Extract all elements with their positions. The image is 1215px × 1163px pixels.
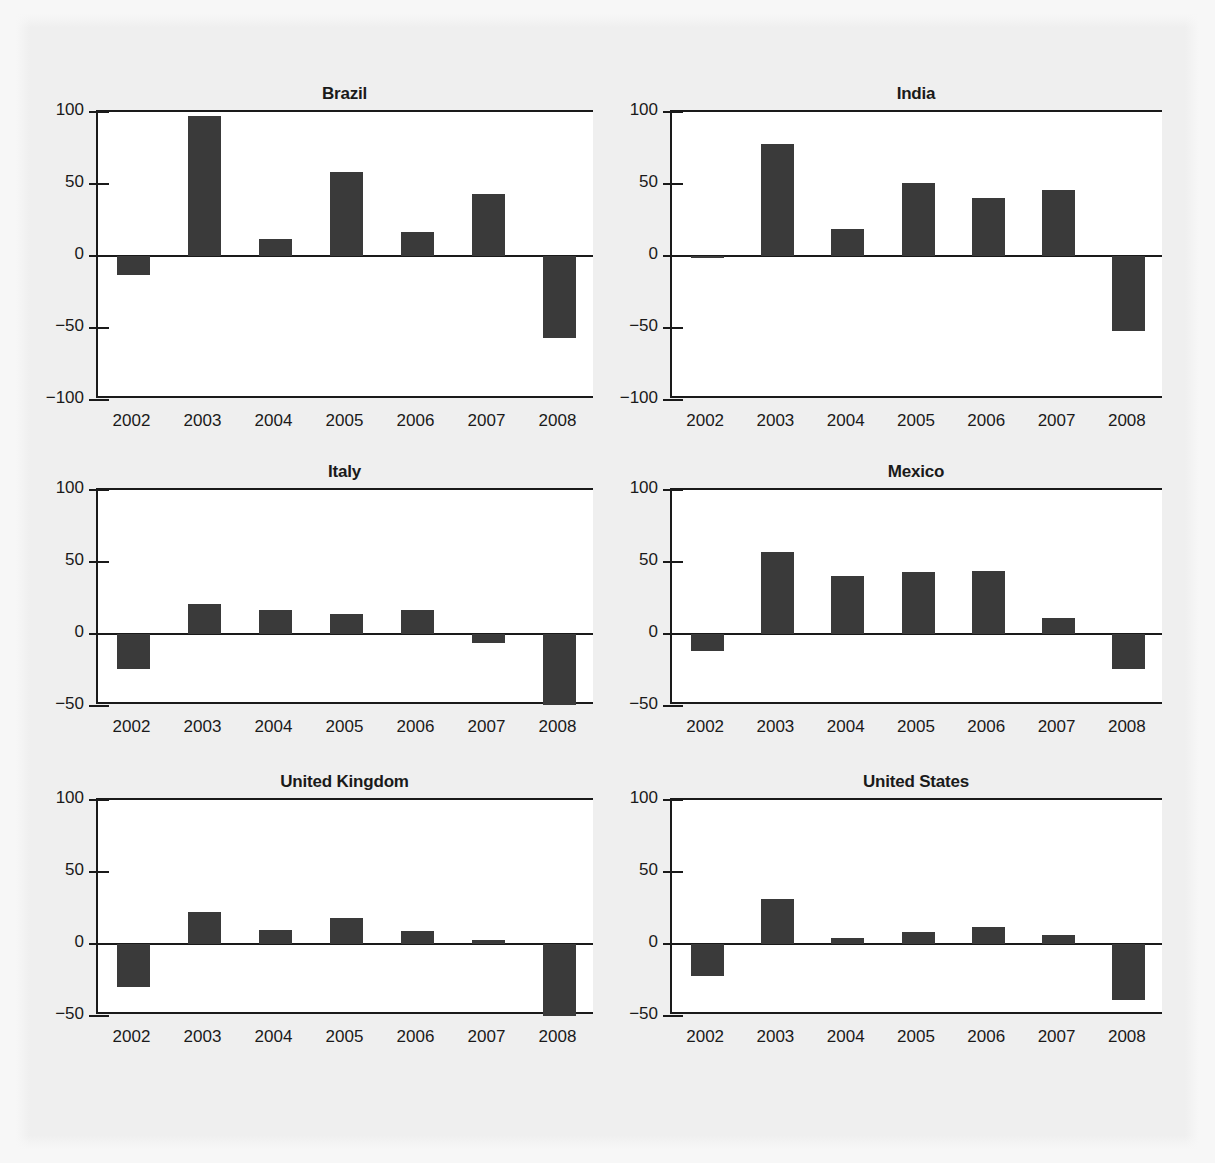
y-axis-tick-label: 0: [36, 623, 84, 640]
y-axis-tick-label: 50: [36, 551, 84, 568]
y-axis-tick-label: 100: [36, 789, 84, 806]
bar: [117, 256, 150, 275]
bar: [972, 198, 1005, 256]
x-axis-tick-label: 2006: [386, 412, 446, 429]
x-axis-tick-label: 2002: [102, 1028, 162, 1045]
plot-area: [670, 798, 1162, 1014]
x-axis-tick-label: 2006: [386, 1028, 446, 1045]
y-axis-tick-label: 100: [36, 479, 84, 496]
bar: [188, 116, 221, 256]
y-axis-tick: [89, 633, 109, 635]
bar: [831, 229, 864, 256]
x-axis-tick-label: 2007: [1027, 718, 1087, 735]
chart-title: United Kingdom: [96, 772, 593, 792]
x-axis-tick-label: 2007: [1027, 1028, 1087, 1045]
bar: [1042, 618, 1075, 634]
bar: [117, 634, 150, 669]
y-axis-tick: [89, 943, 109, 945]
bar: [1042, 935, 1075, 944]
bar: [472, 634, 505, 643]
x-axis-tick-label: 2003: [745, 1028, 805, 1045]
y-axis-tick: [663, 943, 683, 945]
y-axis-tick-label: 100: [610, 479, 658, 496]
y-axis-tick: [663, 255, 683, 257]
x-axis-tick-label: 2005: [886, 718, 946, 735]
x-axis-tick-label: 2007: [1027, 412, 1087, 429]
plot-area: [670, 488, 1162, 704]
y-axis-tick-label: 0: [610, 933, 658, 950]
bar: [902, 572, 935, 634]
chart-panel-brazil: Brazil−100−50050100200220032004200520062…: [36, 84, 593, 436]
y-axis-tick-label: 50: [610, 173, 658, 190]
x-axis-tick-label: 2004: [244, 412, 304, 429]
bar: [401, 931, 434, 944]
y-axis-tick-label: 50: [610, 861, 658, 878]
bar: [902, 183, 935, 256]
y-axis-tick-label: 0: [36, 933, 84, 950]
y-axis-tick-label: −50: [610, 695, 658, 712]
x-axis-tick-label: 2005: [886, 412, 946, 429]
x-axis-tick-label: 2007: [457, 412, 517, 429]
y-axis-tick-label: −100: [610, 389, 658, 406]
x-axis-tick-label: 2008: [528, 412, 588, 429]
bar: [401, 232, 434, 256]
bar: [1112, 634, 1145, 669]
x-axis-tick-label: 2002: [675, 412, 735, 429]
y-axis-tick-label: 0: [610, 623, 658, 640]
bar: [472, 940, 505, 944]
x-axis-tick-label: 2005: [315, 718, 375, 735]
x-axis-tick-label: 2005: [315, 1028, 375, 1045]
plot-area: [96, 798, 593, 1014]
bar: [330, 918, 363, 944]
x-axis-tick-label: 2002: [675, 718, 735, 735]
bar: [259, 930, 292, 944]
y-axis-tick-label: −50: [36, 317, 84, 334]
y-axis-tick-label: −50: [36, 1005, 84, 1022]
x-axis-tick-label: 2003: [173, 1028, 233, 1045]
y-axis-tick: [663, 327, 683, 329]
y-axis-tick: [89, 111, 109, 113]
x-axis-tick-label: 2002: [675, 1028, 735, 1045]
x-axis-tick-label: 2004: [244, 718, 304, 735]
x-axis-tick-label: 2008: [1097, 412, 1157, 429]
y-axis-tick: [663, 489, 683, 491]
y-axis-tick-label: 0: [36, 245, 84, 262]
y-axis-tick-label: 100: [610, 789, 658, 806]
y-axis-tick-label: 100: [610, 101, 658, 118]
x-axis-tick-label: 2008: [1097, 718, 1157, 735]
bar: [543, 944, 576, 1016]
x-axis-tick-label: 2004: [816, 1028, 876, 1045]
x-axis-tick-label: 2008: [528, 718, 588, 735]
y-axis-tick-label: −50: [36, 695, 84, 712]
y-axis-tick: [89, 1015, 109, 1017]
chart-title: United States: [670, 772, 1162, 792]
chart-panel-italy: Italy−5005010020022003200420052006200720…: [36, 462, 593, 742]
y-axis-tick: [663, 705, 683, 707]
plot-area: [96, 110, 593, 398]
bar: [543, 256, 576, 338]
y-axis-tick-label: −100: [36, 389, 84, 406]
y-axis-tick: [663, 799, 683, 801]
plot-area: [96, 488, 593, 704]
x-axis-tick-label: 2006: [956, 412, 1016, 429]
chart-panel-united-kingdom: United Kingdom−5005010020022003200420052…: [36, 772, 593, 1052]
y-axis-tick: [663, 111, 683, 113]
x-axis-tick-label: 2003: [745, 718, 805, 735]
bar: [761, 552, 794, 634]
chart-panel-india: India−100−500501002002200320042005200620…: [610, 84, 1162, 436]
bar: [543, 634, 576, 705]
y-axis-tick: [663, 183, 683, 185]
bar: [691, 634, 724, 651]
y-axis-tick: [89, 561, 109, 563]
y-axis-tick-label: −50: [610, 317, 658, 334]
bar: [330, 614, 363, 634]
chart-panel-united-states: United States−50050100200220032004200520…: [610, 772, 1162, 1052]
bar: [902, 932, 935, 944]
y-axis-tick: [663, 1015, 683, 1017]
x-axis-tick-label: 2006: [956, 1028, 1016, 1045]
bar: [117, 944, 150, 987]
x-axis-tick-label: 2005: [886, 1028, 946, 1045]
bar: [691, 256, 724, 258]
bar: [401, 610, 434, 634]
x-axis-tick-label: 2004: [816, 718, 876, 735]
